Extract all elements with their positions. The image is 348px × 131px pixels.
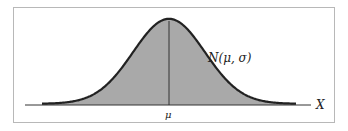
mean-label: μ [165,109,172,120]
normal-distribution-chart: N(μ, σ) X μ [0,0,348,131]
curve-label: N(μ, σ) [207,51,252,65]
x-axis-label: X [315,98,325,112]
